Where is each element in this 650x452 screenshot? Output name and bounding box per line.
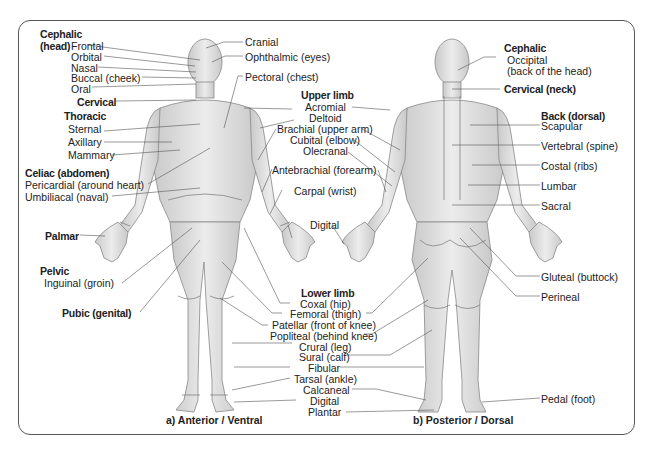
label-mammary: Mammary [68, 149, 115, 161]
label-cervical: Cervical [77, 96, 116, 108]
label-thoracic-heading: Thoracic [64, 110, 106, 122]
label-pedal: Pedal (foot) [541, 393, 595, 405]
label-celiac-heading: Celiac (abdomen) [25, 167, 109, 179]
caption-anterior: a) Anterior / Ventral [166, 414, 262, 426]
label-costal: Costal (ribs) [541, 160, 598, 172]
label-olecranal: Olecranal [303, 145, 348, 157]
label-carpal: Carpal (wrist) [294, 185, 356, 197]
label-umbilical: Umbiliacal (naval) [25, 191, 108, 203]
label-pubic: Pubic (genital) [62, 307, 131, 319]
label-perineal: Perineal [541, 291, 580, 303]
label-scapular: Scapular [541, 120, 582, 132]
label-cephalic-heading: Cephalic [40, 28, 82, 40]
label-antebrachial: Antebrachial (forearm) [272, 164, 376, 176]
caption-posterior: b) Posterior / Dorsal [413, 414, 513, 426]
label-sternal: Sternal [68, 123, 101, 135]
label-pelvic-heading: Pelvic [40, 265, 69, 277]
label-gluteal: Gluteal (buttock) [541, 271, 618, 283]
label-posterior-cervical: Cervical (neck) [504, 83, 576, 95]
label-ophthalmic: Ophthalmic (eyes) [245, 51, 330, 63]
label-lumbar: Lumbar [541, 180, 577, 192]
label-upper-limb-heading: Upper limb [301, 89, 354, 101]
label-head: (head) [40, 40, 70, 52]
label-cranial: Cranial [245, 36, 278, 48]
label-axillary: Axillary [68, 136, 102, 148]
label-plantar: Plantar [308, 406, 341, 418]
label-oral: Oral [71, 83, 91, 95]
label-inguinal: Inguinal (groin) [44, 277, 114, 289]
label-occipital-desc: (back of the head) [507, 65, 592, 77]
label-palmar: Palmar [45, 230, 79, 242]
label-vertebral: Vertebral (spine) [541, 140, 618, 152]
label-pericardial: Pericardial (around heart) [25, 179, 144, 191]
label-digital-hand: Digital [310, 219, 339, 231]
label-pectoral: Pectoral (chest) [245, 71, 319, 83]
label-sacral: Sacral [541, 200, 571, 212]
label-posterior-cephalic: Cephalic [504, 42, 546, 54]
